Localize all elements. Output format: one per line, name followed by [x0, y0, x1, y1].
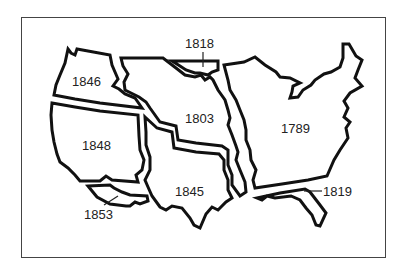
label-1789: 1789 — [281, 121, 310, 136]
label-1845: 1845 — [175, 184, 204, 199]
label-1853: 1853 — [84, 207, 113, 222]
region-1789[interactable] — [224, 44, 362, 188]
label-1819: 1819 — [323, 184, 352, 199]
region-1819[interactable] — [257, 189, 326, 226]
region-1853[interactable] — [88, 185, 148, 206]
label-1803: 1803 — [185, 111, 214, 126]
territorial-expansion-map: 1846 1818 1803 1789 1848 1845 1853 1819 — [0, 0, 409, 272]
label-1818: 1818 — [185, 36, 214, 51]
label-1848: 1848 — [82, 138, 111, 153]
label-1846: 1846 — [72, 74, 101, 89]
